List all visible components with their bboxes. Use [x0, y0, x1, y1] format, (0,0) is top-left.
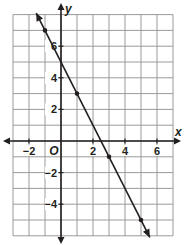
x-tick-label: 2: [90, 145, 96, 157]
origin-label: O: [49, 144, 59, 158]
x-tick-label: 6: [154, 145, 160, 157]
y-tick-label: 6: [51, 40, 57, 52]
y-axis-down-arrow-icon: [58, 237, 65, 244]
y-tick-label: 4: [51, 72, 58, 84]
x-tick-label: −2: [23, 145, 36, 157]
y-tick-label: −4: [44, 198, 57, 210]
x-axis-left-arrow-icon: [3, 138, 10, 145]
y-tick-label: 2: [51, 103, 57, 115]
x-axis-label: x: [174, 125, 183, 139]
data-point: [139, 218, 144, 223]
x-tick-label: 4: [122, 145, 129, 157]
y-axis-label: y: [64, 2, 73, 16]
data-point: [75, 91, 80, 96]
coordinate-plane: yx −2246642−2−4O: [0, 0, 184, 245]
data-point: [43, 28, 48, 33]
y-tick-label: −2: [44, 167, 57, 179]
y-axis-up-arrow-icon: [58, 3, 65, 10]
data-point: [107, 155, 112, 160]
